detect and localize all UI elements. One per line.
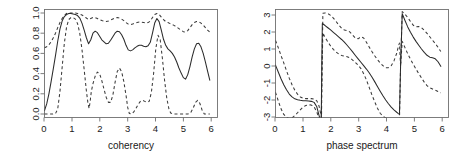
y-tick-label: 1	[261, 46, 272, 51]
x-tick-label: 0	[41, 123, 46, 134]
x-tick-label: 5	[412, 123, 417, 134]
y-tick-label: -2	[261, 96, 272, 104]
phase-y-tickmarks	[272, 15, 276, 117]
y-tick-label: 0.0	[30, 107, 41, 120]
y-tick-label: 0.6	[30, 47, 41, 60]
x-tick-label: 6	[440, 123, 445, 134]
coherency-axis-title: coherency	[108, 140, 154, 151]
phase-x-tickmarks	[275, 118, 442, 122]
y-tick-label: 0.8	[30, 27, 41, 40]
coherency-x-tickmarks	[44, 118, 211, 122]
coherency-svg: 1.0 0.8 0.6 0.4 0.2 0.0	[0, 0, 232, 158]
panel-coherency: 1.0 0.8 0.6 0.4 0.2 0.0	[0, 0, 232, 158]
coherency-y-tickmarks	[41, 13, 45, 114]
x-tick-label: 2	[328, 123, 333, 134]
phase-y-tick-labels: 3 2 1 0 -1 -2 -3	[261, 12, 272, 121]
y-tick-label: 3	[261, 12, 272, 17]
x-tick-label: 4	[153, 123, 158, 134]
y-tick-label: 1.0	[30, 6, 41, 19]
y-tick-label: 2	[261, 29, 272, 34]
curve-upper-band	[45, 13, 210, 48]
x-tick-label: 1	[69, 123, 74, 134]
y-tick-label: 0.2	[30, 87, 41, 100]
curve-upper-band	[276, 12, 441, 118]
curve-lower-band	[45, 18, 210, 114]
x-tick-label: 0	[272, 123, 277, 134]
panel-phase-spectrum: 3 2 1 0 -1 -2 -3	[232, 0, 465, 158]
coherency-curves	[45, 13, 210, 114]
x-tick-label: 5	[181, 123, 186, 134]
phase-axis-title: phase spectrum	[326, 140, 397, 151]
x-tick-label: 6	[209, 123, 214, 134]
phase-svg: 3 2 1 0 -1 -2 -3	[232, 0, 465, 158]
y-tick-label: -3	[261, 113, 272, 121]
x-tick-label: 1	[300, 123, 305, 134]
x-tick-label: 3	[125, 123, 130, 134]
y-tick-label: -1	[261, 79, 272, 87]
curve-coherency-estimate	[45, 14, 210, 111]
curve-phase-estimate	[276, 14, 441, 122]
curve-lower-band	[276, 33, 441, 122]
y-tick-label: 0.4	[30, 67, 41, 80]
x-tick-label: 3	[356, 123, 361, 134]
x-tick-label: 2	[97, 123, 102, 134]
x-tick-label: 4	[384, 123, 389, 134]
phase-curves	[276, 12, 441, 122]
figure-two-panel-spectral-plots: 1.0 0.8 0.6 0.4 0.2 0.0	[0, 0, 465, 158]
y-tick-label: 0	[261, 63, 272, 68]
coherency-x-tick-labels: 0 1 2 3 4 5 6	[41, 123, 213, 134]
phase-x-tick-labels: 0 1 2 3 4 5 6	[272, 123, 444, 134]
coherency-y-tick-labels: 1.0 0.8 0.6 0.4 0.2 0.0	[30, 6, 41, 120]
